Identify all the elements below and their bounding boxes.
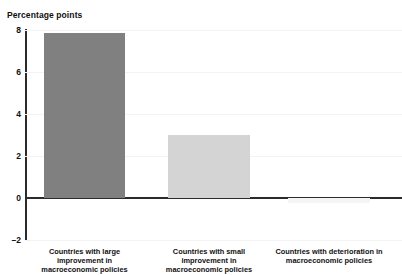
bar <box>44 33 125 198</box>
y-axis-tick-label: 0 <box>1 194 21 203</box>
x-axis-category-label-line: macroeconomic policies <box>257 256 402 265</box>
y-axis-tick-label: 2 <box>1 152 21 161</box>
x-axis-category-label-line: Countries with deterioration in <box>257 247 402 256</box>
x-axis-category-label: Countries with deterioration inmacroecon… <box>257 247 402 265</box>
bar <box>168 135 250 198</box>
gridline <box>25 30 402 31</box>
y-axis-tick-label: 4 <box>1 110 21 119</box>
truncated-header-sliver <box>0 0 402 7</box>
x-axis-category-label: Countries with largeimprovement inmacroe… <box>10 247 160 275</box>
x-axis-category-label-line: macroeconomic policies <box>139 265 279 274</box>
y-axis-title: Percentage points <box>7 10 82 20</box>
y-axis-tick-label: –2 <box>1 236 21 245</box>
plot-area <box>25 30 402 240</box>
y-axis-tick-label: 8 <box>1 26 21 35</box>
x-axis-category-label-line: macroeconomic policies <box>10 265 160 274</box>
x-axis-category-labels: Countries with largeimprovement inmacroe… <box>0 247 402 275</box>
gridline <box>25 240 402 241</box>
x-axis-category-label-line: Countries with large <box>10 247 160 256</box>
y-axis-tick-labels: 86420–2 <box>0 30 21 240</box>
x-axis-category-label-line: improvement in <box>10 256 160 265</box>
bar <box>288 198 370 203</box>
y-axis-tick-label: 6 <box>1 68 21 77</box>
